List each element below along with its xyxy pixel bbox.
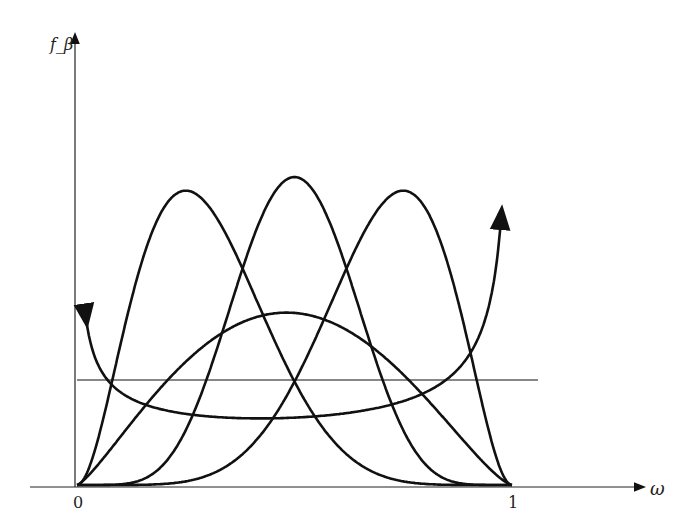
- series-u-shaped: [86, 217, 501, 418]
- x-tick-label-0: 0: [73, 493, 83, 512]
- series-skewed-right-peak: [77, 191, 512, 485]
- x-axis-label: ω: [650, 478, 665, 499]
- series-wide-arc: [77, 313, 512, 485]
- x-tick-label-1: 1: [508, 493, 518, 512]
- series-skewed-left-peak: [77, 191, 512, 485]
- y-axis-label: f_β: [49, 35, 73, 54]
- beta-density-chart: f_β ω 0 1: [0, 0, 695, 527]
- series-symmetric-peak: [77, 177, 512, 485]
